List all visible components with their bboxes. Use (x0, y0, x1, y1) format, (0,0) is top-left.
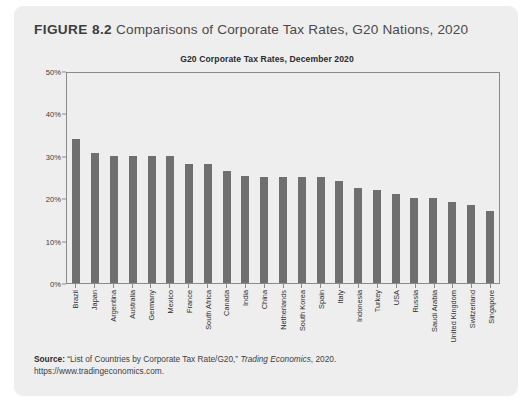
bar-slot (386, 73, 405, 283)
x-axis-tick (396, 284, 397, 288)
bar[interactable] (467, 205, 475, 283)
bar[interactable] (260, 177, 268, 283)
x-axis-label-slot: Argentina (104, 290, 123, 358)
bar-slot (349, 73, 368, 283)
x-axis-tick-slot (349, 284, 368, 288)
x-axis-category-label: Japan (90, 290, 99, 310)
x-axis-category-label: United Kingdom (448, 290, 457, 343)
x-axis-label-slot: Indonesia (349, 290, 368, 358)
x-axis-label-slot: China (255, 290, 274, 358)
x-axis-category-label: Australia (128, 290, 137, 319)
x-axis-category-label: South Korea (297, 290, 306, 331)
x-axis-category-label: Singapore (486, 290, 495, 324)
x-axis-label-slot: Netherlands (274, 290, 293, 358)
bar[interactable] (166, 156, 174, 283)
x-axis-tick-slot (311, 284, 330, 288)
figure-card: FIGURE 8.2 Comparisons of Corporate Tax … (14, 6, 518, 396)
x-axis-category-label: Argentina (109, 290, 118, 322)
x-axis-tick-slot (179, 284, 198, 288)
x-axis-category-label: Italy (335, 290, 344, 304)
bar-slot (105, 73, 124, 283)
bar[interactable] (410, 198, 418, 283)
x-axis-label-slot: South Korea (293, 290, 312, 358)
bar[interactable] (241, 176, 249, 283)
x-axis-tick (264, 284, 265, 288)
x-axis-tick-slot (217, 284, 236, 288)
bar[interactable] (129, 156, 137, 283)
x-axis-tick (377, 284, 378, 288)
x-axis-tick-slot (368, 284, 387, 288)
x-axis-category-label: Turkey (373, 290, 382, 312)
x-axis-label-slot: Canada (217, 290, 236, 358)
x-axis-tick (207, 284, 208, 288)
source-url: https://www.tradingeconomics.com. (34, 366, 164, 376)
figure-number: FIGURE 8.2 (34, 22, 112, 37)
x-axis-tick (358, 284, 359, 288)
x-axis-category-label: South Africa (203, 290, 212, 330)
bar-slot (180, 73, 199, 283)
bar[interactable] (148, 156, 156, 283)
bar-slot (330, 73, 349, 283)
bar[interactable] (486, 211, 494, 283)
x-axis-category-label: Spain (316, 290, 325, 309)
bar-slot (255, 73, 274, 283)
bar[interactable] (317, 177, 325, 283)
plot-area (66, 72, 500, 284)
x-axis-tick-slot (293, 284, 312, 288)
source-label: Source: (34, 354, 65, 364)
x-axis-tick (245, 284, 246, 288)
bar[interactable] (279, 177, 287, 283)
bar-slot (368, 73, 387, 283)
x-axis-category-label: India (241, 290, 250, 306)
x-axis-tick (113, 284, 114, 288)
x-axis-tick-slot (274, 284, 293, 288)
x-axis-tick (169, 284, 170, 288)
bar[interactable] (185, 164, 193, 283)
bar[interactable] (335, 181, 343, 283)
y-axis-tick (62, 114, 66, 115)
x-axis-label-slot: Turkey (368, 290, 387, 358)
x-axis-labels: BrazilJapanArgentinaAustraliaGermanyMexi… (66, 290, 500, 358)
x-axis-tick-slot (66, 284, 85, 288)
x-axis-category-label: Indonesia (354, 290, 363, 322)
x-axis-label-slot: USA (387, 290, 406, 358)
x-axis-tick-slot (481, 284, 500, 288)
y-axis-tick-label: 10% (46, 237, 61, 246)
x-axis-label-slot: Singapore (481, 290, 500, 358)
x-axis-tick-slot (462, 284, 481, 288)
bar[interactable] (354, 188, 362, 283)
source-note: Source: “List of Countries by Corporate … (34, 353, 500, 378)
bar[interactable] (223, 171, 231, 283)
bar[interactable] (204, 164, 212, 283)
x-axis-tick (75, 284, 76, 288)
bar-slot (274, 73, 293, 283)
x-axis-tick (339, 284, 340, 288)
y-axis-tick-label: 50% (46, 68, 61, 77)
bar[interactable] (373, 190, 381, 283)
x-axis-tick (415, 284, 416, 288)
bar[interactable] (110, 156, 118, 283)
x-axis-category-label: USA (392, 290, 401, 305)
x-axis-category-label: France (184, 290, 193, 313)
x-axis-ticks (66, 284, 500, 288)
y-axis-tick (62, 156, 66, 157)
bar[interactable] (91, 153, 99, 283)
x-axis-tick (94, 284, 95, 288)
bar-slot (67, 73, 86, 283)
x-axis-category-label: Saudi Arabia (430, 290, 439, 332)
x-axis-category-label: Switzerland (467, 290, 476, 328)
bar[interactable] (429, 198, 437, 283)
x-axis-tick (452, 284, 453, 288)
bar[interactable] (392, 194, 400, 283)
x-axis-tick-slot (142, 284, 161, 288)
x-axis-label-slot: Australia (123, 290, 142, 358)
x-axis-tick-slot (425, 284, 444, 288)
chart-title: G20 Corporate Tax Rates, December 2020 (34, 54, 500, 64)
bar[interactable] (298, 177, 306, 283)
plot-wrapper: 0%10%20%30%40%50% BrazilJapanArgentinaAu… (66, 72, 500, 284)
bar-slot (123, 73, 142, 283)
bar[interactable] (448, 202, 456, 283)
y-axis-tick (62, 72, 66, 73)
bar-slot (198, 73, 217, 283)
bar[interactable] (72, 139, 80, 283)
